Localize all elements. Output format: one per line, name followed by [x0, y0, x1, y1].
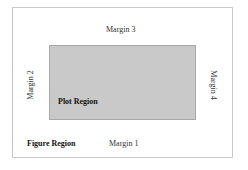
margin-3-label: Margin 3 [106, 25, 135, 34]
figure-region-label: Figure Region [27, 139, 76, 148]
plot-region [49, 45, 196, 120]
margin-2-label: Margin 2 [26, 70, 35, 99]
plot-region-label: Plot Region [58, 97, 98, 106]
margin-1-label: Margin 1 [109, 139, 138, 148]
margin-4-label: Margin 4 [209, 70, 218, 99]
